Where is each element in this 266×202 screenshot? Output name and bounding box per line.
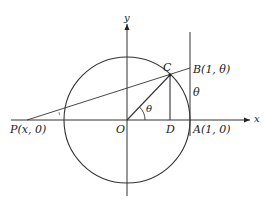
diagram-canvas xyxy=(0,0,266,202)
angle-arc-icon xyxy=(140,107,146,120)
point-p-label: P(x, 0) xyxy=(10,124,46,135)
point-d-label: D xyxy=(166,124,175,135)
segment-ab-label: θ xyxy=(193,87,200,98)
angle-theta-label: θ xyxy=(146,104,152,114)
point-b-label: B(1, θ) xyxy=(193,64,230,75)
unit-circle-figure: y x C B(1, θ) θ θ P(x, 0) O D A(1, 0) xyxy=(0,0,266,202)
x-axis-label: x xyxy=(254,114,260,124)
line-pb xyxy=(27,68,190,120)
point-o-label: O xyxy=(116,124,125,135)
y-axis-label: y xyxy=(124,13,130,23)
point-c-label: C xyxy=(163,62,171,73)
angle-tick-p xyxy=(59,112,60,115)
point-a-label: A(1, 0) xyxy=(193,124,231,135)
